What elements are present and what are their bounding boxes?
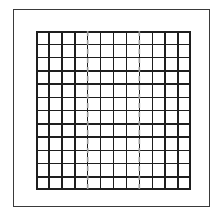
figure-canvas [0, 0, 224, 220]
grid-cells-group [36, 31, 191, 190]
cell-grid [36, 31, 191, 190]
grid-svg [36, 31, 191, 190]
